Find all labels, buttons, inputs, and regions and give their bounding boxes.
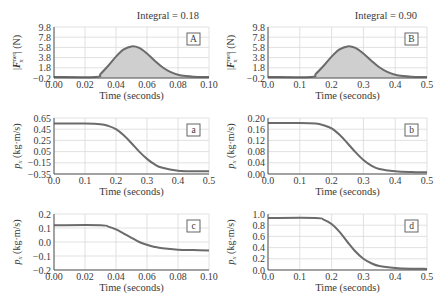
integral-annotation: Integral = 0.90 [355, 10, 417, 21]
y-tick-label: 0.2 [39, 209, 52, 220]
y-tick-label: −0.1 [33, 251, 51, 262]
x-tick-label: 0.1 [79, 175, 92, 186]
y-axis-label: px (kg·m/s) [225, 123, 238, 169]
x-tick-label: 0.02 [76, 79, 94, 90]
x-tick-label: 0.3 [357, 271, 370, 282]
y-tick-label: 0.00 [248, 169, 266, 180]
x-tick-label: 0.08 [169, 79, 187, 90]
y-tick-label: 0.12 [248, 135, 266, 146]
y-tick-label: 0.1 [39, 223, 52, 234]
x-tick-label: 0.1 [294, 79, 307, 90]
panel-label: d [409, 221, 414, 231]
y-tick-label: 0.05 [34, 146, 52, 157]
grid [54, 118, 209, 174]
x-tick-label: 0.2 [110, 175, 123, 186]
y-tick-label: 0.2 [253, 253, 266, 264]
chart-panel-B: 0.00.10.20.30.40.59.87.85.83.81.8−0.2Tim… [224, 10, 433, 102]
y-axis-label: px (kg·m/s) [11, 219, 24, 265]
x-axis-label: Time (seconds) [99, 186, 164, 198]
x-axis-label: Time (seconds) [99, 90, 164, 102]
chart-panel-a: 0.00.10.20.30.40.50.650.450.250.05−0.15−… [11, 113, 215, 199]
chart-panel-d: 0.00.10.20.30.40.51.00.80.60.40.20.0Time… [225, 209, 433, 295]
x-tick-label: 0.3 [357, 175, 370, 186]
x-tick-label: 0.02 [76, 271, 94, 282]
chart-panel-c: 0.000.020.040.060.080.100.20.10.0−0.1−0.… [11, 209, 218, 295]
y-axis-label: |Fnetx| (N) [224, 35, 239, 70]
data-line [268, 123, 427, 172]
panel-label: B [408, 34, 414, 44]
x-tick-label: 0.3 [141, 175, 154, 186]
y-tick-label: −0.2 [33, 265, 51, 276]
area-fill [268, 46, 427, 78]
panel-label: b [409, 125, 414, 135]
y-tick-label: 0.65 [34, 113, 52, 124]
x-tick-label: 0.1 [294, 175, 307, 186]
figure: 0.000.020.040.060.080.109.87.85.83.81.8−… [0, 0, 437, 302]
chart-panel-A: 0.000.020.040.060.080.109.87.85.83.81.8−… [10, 10, 218, 102]
y-tick-label: 0.8 [253, 220, 266, 231]
y-tick-label: 0.6 [253, 231, 266, 242]
x-tick-label: 0.5 [421, 175, 434, 186]
y-tick-label: 0.08 [248, 146, 266, 157]
x-tick-label: 0.4 [389, 79, 402, 90]
integral-annotation: Integral = 0.18 [137, 10, 199, 21]
x-tick-label: 0.1 [294, 271, 307, 282]
x-tick-label: 0.06 [138, 79, 156, 90]
y-tick-label: −0.35 [28, 169, 51, 180]
x-tick-label: 0.2 [325, 175, 338, 186]
y-tick-label: 0.45 [34, 124, 52, 135]
y-tick-label: 0.4 [253, 242, 266, 253]
grid [54, 214, 209, 270]
x-tick-label: 0.5 [421, 271, 434, 282]
x-axis-label: Time (seconds) [99, 282, 164, 294]
x-tick-label: 0.04 [107, 271, 125, 282]
y-axis-label: px (kg·m/s) [11, 123, 24, 169]
x-tick-label: 0.06 [138, 271, 156, 282]
x-tick-label: 0.4 [389, 271, 402, 282]
x-tick-label: 0.04 [107, 79, 125, 90]
x-tick-label: 0.4 [389, 175, 402, 186]
data-line [54, 225, 209, 250]
y-tick-label: −0.2 [247, 73, 265, 84]
y-tick-label: 1.0 [253, 209, 266, 220]
chart-panel-b: 0.00.10.20.30.40.50.200.160.120.080.040.… [225, 113, 433, 199]
x-axis-label: Time (seconds) [315, 186, 380, 198]
x-tick-label: 0.2 [325, 271, 338, 282]
y-tick-label: 0.0 [253, 265, 266, 276]
x-tick-label: 0.4 [172, 175, 185, 186]
y-tick-label: 0.20 [248, 113, 266, 124]
x-tick-label: 0.10 [200, 79, 218, 90]
x-tick-label: 0.08 [169, 271, 187, 282]
x-tick-label: 0.3 [357, 79, 370, 90]
panel-label: A [190, 34, 197, 44]
x-tick-label: 0.10 [200, 271, 218, 282]
y-tick-label: 0.0 [39, 237, 52, 248]
panel-label: c [191, 221, 195, 231]
y-axis-label: px (kg·m/s) [225, 219, 238, 265]
y-tick-label: 0.25 [34, 135, 52, 146]
x-axis-label: Time (seconds) [315, 90, 380, 102]
x-tick-label: 0.5 [421, 79, 434, 90]
y-axis-label: |Fnetx| (N) [10, 35, 25, 70]
y-tick-label: −0.15 [28, 157, 51, 168]
grid [268, 118, 427, 174]
area-fill [54, 46, 209, 78]
x-axis-label: Time (seconds) [315, 282, 380, 294]
y-tick-label: 0.04 [248, 157, 266, 168]
y-tick-label: 0.16 [248, 124, 266, 135]
x-tick-label: 0.2 [325, 79, 338, 90]
x-tick-label: 0.5 [203, 175, 216, 186]
y-tick-label: −0.2 [33, 73, 51, 84]
data-line [54, 124, 209, 172]
